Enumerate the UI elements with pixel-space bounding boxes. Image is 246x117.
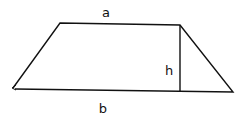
label-b: b — [99, 101, 107, 116]
trapezoid-outline — [13, 23, 233, 92]
label-h: h — [165, 63, 173, 78]
label-a: a — [102, 5, 110, 20]
trapezoid-diagram: a h b — [0, 0, 246, 117]
